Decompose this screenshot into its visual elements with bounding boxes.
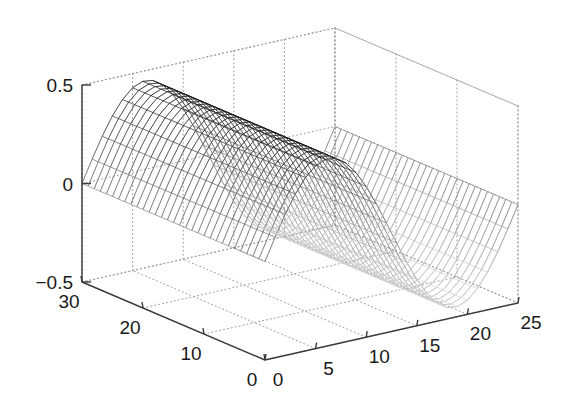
x-axis-tick-label: 20 xyxy=(470,323,491,344)
mesh-segment xyxy=(337,212,347,228)
x-axis-tick xyxy=(467,308,468,314)
z-axis-tick-label: 0.5 xyxy=(47,75,73,96)
mesh-segment xyxy=(390,240,400,259)
floor-grid-line-x xyxy=(234,248,417,326)
mesh-segment xyxy=(423,296,433,297)
mesh-segment xyxy=(445,295,455,301)
figure-3d-surface-plot: 051015202530201000.50−0.5 xyxy=(0,0,567,406)
mesh-segment xyxy=(129,90,139,102)
x-axis-tick-label: 25 xyxy=(520,312,541,333)
mesh-segment xyxy=(267,157,277,176)
mesh-segment xyxy=(313,249,323,250)
mesh-segment xyxy=(157,92,167,98)
plot-canvas: 051015202530201000.50−0.5 xyxy=(0,0,567,406)
mesh-segment xyxy=(441,304,451,305)
mesh-segment xyxy=(352,193,362,212)
mesh-segment xyxy=(206,131,216,150)
mesh-segment xyxy=(313,202,323,218)
mesh-segment xyxy=(141,96,151,108)
mesh-segment xyxy=(199,128,209,147)
mesh-segment xyxy=(299,201,309,220)
mesh-segment xyxy=(192,133,202,149)
z-axis-tick-label: 0 xyxy=(62,174,73,195)
z-axis-tick-label: −0.5 xyxy=(35,272,73,293)
mesh-segment xyxy=(439,292,449,298)
mesh-segment xyxy=(256,183,266,202)
mesh-segment xyxy=(435,301,445,302)
mesh-segment xyxy=(301,197,311,213)
mesh-segment xyxy=(262,186,272,205)
mesh-segment xyxy=(384,238,394,257)
mesh-segment xyxy=(293,199,303,218)
mesh-segment xyxy=(301,244,311,245)
mesh-segment xyxy=(447,259,457,275)
mesh-segment xyxy=(329,214,339,233)
mesh-segment xyxy=(325,207,335,223)
mesh-segment xyxy=(281,194,291,213)
mesh-segment xyxy=(214,165,224,184)
y-axis-tick-label: 20 xyxy=(119,317,140,338)
mesh-segment xyxy=(244,178,254,197)
mesh-segment xyxy=(328,183,338,202)
mesh-segment xyxy=(449,281,459,293)
surface-mesh xyxy=(82,80,518,307)
mesh-segment xyxy=(155,118,165,134)
x-axis-tick-label: 0 xyxy=(273,369,284,390)
mesh-segment xyxy=(159,103,169,115)
mesh-segment xyxy=(386,233,396,249)
y-axis-tick xyxy=(264,354,265,360)
mesh-segment xyxy=(478,272,488,288)
mesh-segment xyxy=(169,97,179,103)
mesh-segment xyxy=(457,300,467,306)
mesh-segment xyxy=(461,286,471,298)
mesh-segment xyxy=(224,139,234,158)
mesh-segment xyxy=(317,209,327,228)
mesh-segment xyxy=(279,162,289,181)
mesh-segment xyxy=(242,147,252,166)
mesh-segment xyxy=(471,269,481,285)
mesh-segment xyxy=(305,204,315,223)
mesh-segment xyxy=(429,251,439,267)
mesh-segment xyxy=(236,144,246,163)
mesh-segment xyxy=(410,243,420,259)
mesh-segment xyxy=(467,288,477,300)
mesh-segment xyxy=(297,170,307,189)
mesh-segment xyxy=(364,199,374,218)
mesh-segment xyxy=(346,191,356,210)
mesh-segment xyxy=(232,173,242,192)
mesh-segment xyxy=(386,281,396,282)
mesh-segment xyxy=(392,236,402,252)
mesh-segment xyxy=(248,149,258,168)
mesh-segment xyxy=(431,273,441,285)
mesh-segment xyxy=(173,126,183,142)
mesh-segment xyxy=(435,254,445,270)
mesh-segment xyxy=(167,123,177,139)
mesh-segment xyxy=(419,268,429,280)
mesh-segment xyxy=(350,265,360,266)
mesh-segment xyxy=(348,222,358,241)
mesh-segment xyxy=(254,152,264,171)
mesh-segment xyxy=(220,168,230,187)
floor-grid-line-x xyxy=(183,259,366,337)
mesh-segment xyxy=(465,267,475,283)
mesh-segment xyxy=(122,88,132,100)
mesh-segment xyxy=(356,220,366,236)
mesh-segment xyxy=(161,120,171,136)
mesh-segment xyxy=(354,225,364,244)
mesh-segment xyxy=(315,178,325,197)
mesh-segment xyxy=(285,165,295,184)
x-axis-tick-label: 15 xyxy=(419,335,440,356)
mesh-segment xyxy=(349,217,359,233)
box-edge-dotted xyxy=(82,28,335,85)
mesh-segment xyxy=(307,199,317,215)
mesh-segment xyxy=(139,84,149,90)
mesh-segment xyxy=(193,126,203,145)
mesh-segment xyxy=(295,242,305,243)
x-axis-tick xyxy=(316,343,317,349)
mesh-segment xyxy=(378,235,388,254)
mesh-segment xyxy=(153,80,163,85)
mesh-segment xyxy=(443,278,453,290)
mesh-segment xyxy=(149,83,159,84)
mesh-segment xyxy=(311,207,321,226)
mesh-segment xyxy=(340,188,350,207)
